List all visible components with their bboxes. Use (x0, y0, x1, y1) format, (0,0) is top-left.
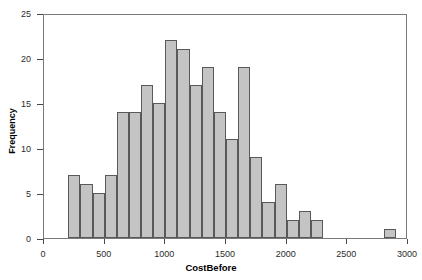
histogram-figure: Frequency 0510152025 CostBefore 05001000… (0, 0, 422, 280)
x-axis-title: CostBefore (0, 262, 422, 273)
histogram-bar (311, 220, 323, 238)
histogram-bar (238, 67, 250, 238)
x-axis: CostBefore 050010001500200025003000 (0, 239, 422, 280)
histogram-bar (226, 139, 238, 238)
histogram-bar (287, 220, 299, 238)
histogram-bar (68, 175, 80, 238)
histogram-bar (105, 175, 117, 238)
bar-series (44, 15, 406, 238)
x-tick-mark (43, 239, 44, 244)
x-tick-label: 1000 (154, 249, 174, 259)
y-tick-label: 15 (21, 99, 31, 109)
x-tick-label: 0 (40, 249, 45, 259)
x-tick-mark (225, 239, 226, 244)
y-tick-label: 10 (21, 144, 31, 154)
x-tick-mark (407, 239, 408, 244)
histogram-bar (93, 193, 105, 238)
histogram-bar (80, 184, 92, 238)
histogram-bar (165, 40, 177, 238)
y-tick-label: 20 (21, 54, 31, 64)
y-axis-title: Frequency (7, 91, 17, 171)
y-axis: Frequency 0510152025 (0, 0, 43, 240)
histogram-bar (214, 112, 226, 238)
x-tick-label: 1500 (215, 249, 235, 259)
x-tick-label: 500 (96, 249, 111, 259)
x-tick-mark (286, 239, 287, 244)
x-tick-mark (104, 239, 105, 244)
x-tick-mark (164, 239, 165, 244)
plot-area (43, 14, 407, 239)
histogram-bar (129, 112, 141, 238)
histogram-bar (117, 112, 129, 238)
histogram-bar (250, 157, 262, 238)
x-tick-mark (346, 239, 347, 244)
histogram-bar (153, 103, 165, 238)
histogram-bar (262, 202, 274, 238)
histogram-bar (177, 49, 189, 238)
y-tick-label: 5 (26, 189, 31, 199)
histogram-bar (202, 67, 214, 238)
y-tick-label: 25 (21, 9, 31, 19)
histogram-bar (190, 85, 202, 238)
histogram-bar (141, 85, 153, 238)
histogram-bar (384, 229, 396, 238)
histogram-bar (299, 211, 311, 238)
x-tick-label: 2000 (276, 249, 296, 259)
x-tick-label: 2500 (336, 249, 356, 259)
x-tick-label: 3000 (397, 249, 417, 259)
histogram-bar (275, 184, 287, 238)
